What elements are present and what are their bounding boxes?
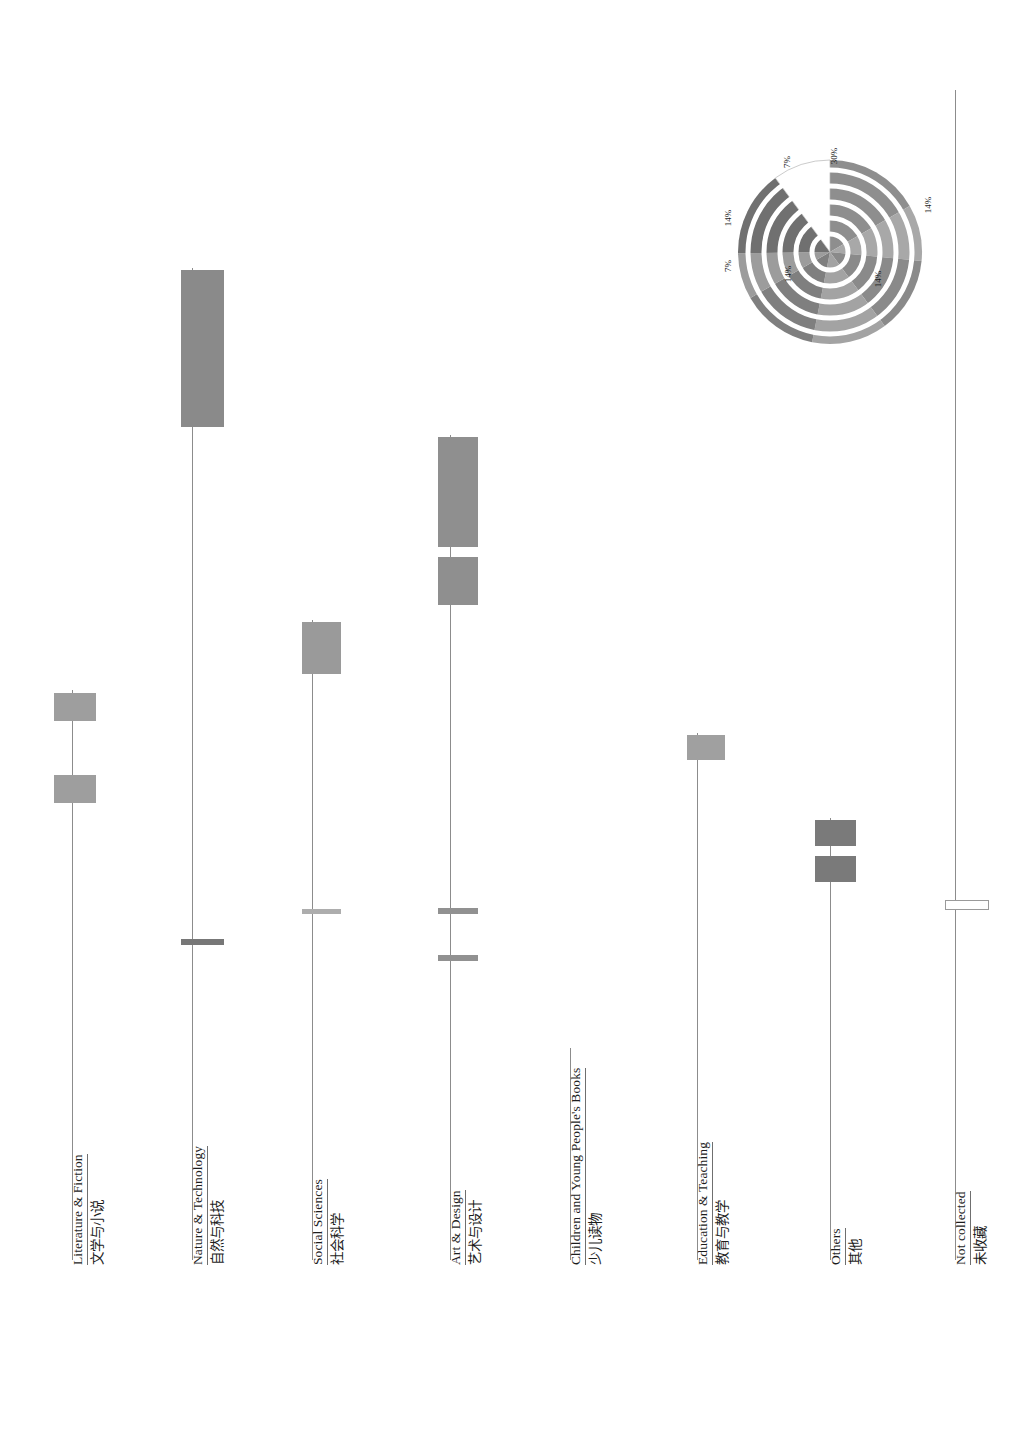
category-label-en: Others [828,1228,846,1265]
pie-label-14b: 14% [873,270,883,287]
bar-art-1 [438,437,478,547]
category-label-literature-fiction: Literature & Fiction 文学与小说 [70,1154,106,1265]
category-label-zh: 其他 [846,1228,864,1265]
category-label-zh: 艺术与设计 [466,1190,484,1265]
category-label-en: Education & Teaching [695,1142,713,1265]
category-label-en: Social Sciences [310,1179,328,1265]
bar-not-collected-1 [945,900,989,910]
category-label-not-collected: Not collected 未收藏 [953,1191,989,1265]
pie-label-14d: 14% [723,209,733,226]
category-label-zh: 少儿读物 [586,1068,604,1265]
pie-label-14c: 14% [783,265,793,282]
bar-art-2 [438,557,478,605]
category-label-others: Others 其他 [828,1228,864,1265]
pie-label-14a: 14% [923,196,933,213]
category-label-education-teaching: Education & Teaching 教育与教学 [695,1142,731,1265]
category-label-zh: 社会科学 [328,1179,346,1265]
bar-literature-1 [54,693,96,721]
category-label-art-design: Art & Design 艺术与设计 [448,1190,484,1265]
bar-social-2 [302,909,341,914]
bar-social-1 [302,622,341,674]
bar-art-3 [438,908,478,914]
category-label-en: Art & Design [448,1190,466,1265]
category-label-en: Nature & Technology [190,1146,208,1265]
bar-nature-2 [181,939,224,945]
category-label-en: Literature & Fiction [70,1154,88,1265]
axis-line-others [830,818,831,1260]
category-label-zh: 教育与教学 [713,1142,731,1265]
bar-art-4 [438,955,478,961]
axis-line-not-collected [955,90,956,1260]
bar-education-1 [687,735,725,760]
pie-svg: 30% 14% 14% 14% 7% 14% 7% [718,70,948,300]
bar-others-2 [815,856,856,882]
bar-nature-1 [181,270,224,427]
bar-others-1 [815,820,856,846]
category-label-zh: 未收藏 [971,1191,989,1265]
pie-label-30: 30% [829,147,839,164]
category-label-en: Children and Young People's Books [568,1068,586,1265]
radial-pie-chart: 30% 14% 14% 14% 7% 14% 7% [718,70,948,300]
category-label-children-books: Children and Young People's Books 少儿读物 [568,1068,604,1265]
category-label-nature-technology: Nature & Technology 自然与科技 [190,1146,226,1265]
bar-literature-2 [54,775,96,803]
pie-slices [738,160,922,344]
category-label-zh: 自然与科技 [208,1146,226,1265]
chart-canvas: Literature & Fiction 文学与小说 Nature & Tech… [0,0,1011,1438]
pie-label-7b: 7% [782,156,792,169]
category-label-en: Not collected [953,1191,971,1265]
category-label-social-sciences: Social Sciences 社会科学 [310,1179,346,1265]
axis-line-social-sciences [312,620,313,1260]
pie-label-7a: 7% [723,260,733,273]
category-label-zh: 文学与小说 [88,1154,106,1265]
